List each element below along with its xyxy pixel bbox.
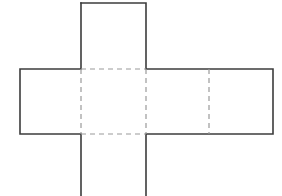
figure-container: b.	[0, 0, 282, 196]
net-diagram	[0, 0, 282, 196]
